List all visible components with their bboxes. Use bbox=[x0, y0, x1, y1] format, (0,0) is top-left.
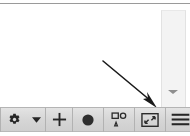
shapes-button[interactable] bbox=[104, 107, 134, 132]
caret-down-icon bbox=[32, 117, 41, 123]
plus-icon bbox=[52, 112, 67, 127]
record-circle-icon bbox=[81, 113, 95, 127]
bottom-strip bbox=[0, 132, 190, 136]
add-button[interactable] bbox=[46, 107, 72, 132]
settings-button[interactable] bbox=[1, 107, 27, 132]
bottom-toolbar bbox=[0, 107, 190, 132]
chevron-down-icon[interactable] bbox=[168, 90, 178, 94]
app-window: Viewport bbox=[0, 0, 190, 136]
side-panel[interactable] bbox=[161, 10, 186, 108]
record-button[interactable] bbox=[73, 107, 103, 132]
menu-button[interactable] bbox=[166, 107, 190, 132]
fit-to-screen-button[interactable] bbox=[135, 107, 165, 132]
fit-to-screen-icon bbox=[141, 113, 159, 127]
gear-icon bbox=[8, 113, 21, 126]
shapes-icon bbox=[111, 112, 127, 127]
settings-menu-button[interactable] bbox=[27, 107, 45, 132]
hamburger-menu-icon bbox=[171, 113, 190, 126]
